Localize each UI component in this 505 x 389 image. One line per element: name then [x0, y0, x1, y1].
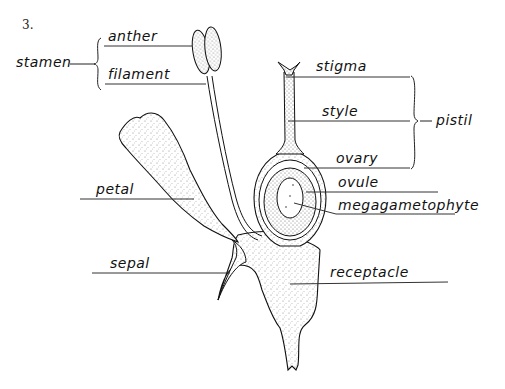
label-petal: petal: [96, 181, 134, 197]
stamen-bracket: [94, 38, 101, 90]
label-style: style: [322, 103, 358, 119]
petal-shape: [119, 113, 238, 242]
stigma-shape: [278, 62, 300, 75]
style-shape: [276, 72, 304, 154]
receptacle-shape: [218, 231, 320, 370]
label-pistil: pistil: [436, 112, 472, 128]
label-anther: anther: [108, 28, 157, 44]
pistil-bracket: [411, 76, 418, 169]
sepal-shape: [218, 240, 246, 300]
flower-drawing: [0, 0, 505, 389]
label-receptacle: receptacle: [330, 264, 409, 280]
label-megagametophyte: megagametophyte: [338, 197, 479, 213]
label-ovary: ovary: [336, 150, 378, 166]
label-stamen: stamen: [16, 54, 72, 70]
figure-number: 3.: [22, 18, 33, 32]
label-filament: filament: [108, 66, 170, 82]
flower-diagram: 3. stamen anther filament stigma style p…: [0, 0, 505, 389]
megagametophyte-shape: [277, 178, 303, 218]
label-sepal: sepal: [110, 255, 150, 271]
label-ovule: ovule: [338, 174, 379, 190]
label-stigma: stigma: [316, 58, 367, 74]
